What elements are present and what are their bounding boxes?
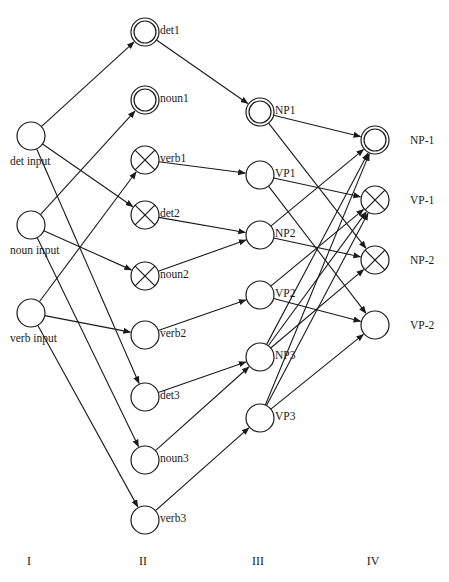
circle-icon [246, 221, 274, 249]
edges-layer [37, 40, 370, 511]
edge-verb2-to-vp2 [158, 300, 246, 330]
node-vp1: VP1 [246, 161, 296, 189]
circle-icon [131, 321, 159, 349]
node-vp-2: VP-2 [361, 311, 435, 339]
circle-icon [131, 506, 159, 534]
column-label-iv: IV [367, 554, 380, 568]
node-np2: NP2 [246, 221, 296, 249]
node-verb3: verb3 [131, 506, 186, 534]
node-verb2: verb2 [131, 321, 186, 349]
node-label: det input [10, 155, 51, 168]
node-vp3: VP3 [246, 404, 296, 432]
node-label: NP-1 [410, 134, 435, 146]
node-label: verb3 [160, 512, 186, 524]
edge-np1-to-np-1 [274, 115, 361, 136]
edge-noun-input-to-noun1 [40, 111, 134, 215]
node-label: noun1 [160, 92, 189, 104]
column-label-i: I [27, 554, 31, 568]
node-label: NP1 [275, 104, 296, 116]
node-label: NP2 [275, 227, 296, 239]
edge-np3-to-np-1 [267, 153, 368, 344]
node-label: VP3 [275, 410, 296, 422]
node-label: det2 [160, 207, 180, 219]
circle-icon [131, 383, 159, 411]
node-label: noun3 [160, 452, 189, 464]
node-vp-1: VP-1 [361, 186, 435, 214]
edge-verb-input-to-verb3 [38, 325, 138, 507]
nodes-layer: det inputnoun inputverb inputdet1noun1ve… [10, 18, 435, 534]
double-ring-circle-icon [361, 126, 389, 154]
node-label: VP-2 [410, 319, 435, 331]
edge-verb3-to-vp3 [155, 428, 248, 511]
node-noun3: noun3 [131, 446, 189, 474]
node-np-2: NP-2 [361, 246, 435, 274]
node-label: verb input [10, 332, 58, 345]
node-det2: det2 [131, 201, 180, 229]
edge-vp3-to-vp-1 [267, 213, 368, 405]
edge-noun3-to-np3 [155, 367, 248, 451]
node-noun2: noun2 [131, 262, 189, 290]
edge-verb-input-to-verb1 [39, 172, 136, 302]
edge-det2-to-np2 [159, 217, 245, 232]
node-np-1: NP-1 [361, 126, 435, 154]
network-diagram: det inputnoun inputverb inputdet1noun1ve… [0, 0, 449, 582]
circle-icon [131, 446, 159, 474]
node-label: VP-1 [410, 194, 435, 206]
double-ring-circle-icon [246, 98, 274, 126]
node-label: noun2 [160, 268, 189, 280]
node-noun1: noun1 [131, 86, 189, 114]
node-label: NP-2 [410, 254, 435, 266]
circle-icon [246, 161, 274, 189]
node-label: VP2 [275, 287, 296, 299]
node-label: det1 [160, 24, 180, 36]
node-label: verb1 [160, 152, 186, 164]
node-label: VP1 [275, 167, 296, 179]
double-ring-circle-icon [131, 86, 159, 114]
node-det-input: det input [10, 122, 51, 168]
circle-icon [246, 281, 274, 309]
column-labels: IIIIIIIV [27, 554, 380, 568]
circle-icon [246, 343, 274, 371]
circle-icon [17, 211, 45, 239]
column-label-ii: II [139, 554, 147, 568]
edge-verb-input-to-verb2 [45, 316, 131, 333]
edge-det3-to-np3 [158, 362, 246, 392]
node-np1: NP1 [246, 98, 296, 126]
circle-icon [17, 122, 45, 150]
double-ring-circle-icon [131, 18, 159, 46]
circle-icon [361, 311, 389, 339]
node-label: det3 [160, 389, 180, 401]
edge-vp3-to-np-1 [265, 154, 369, 405]
edge-det-input-to-det1 [41, 42, 134, 126]
node-verb1: verb1 [131, 146, 186, 174]
node-verb-input: verb input [10, 299, 58, 345]
node-label: noun input [10, 244, 60, 257]
circle-icon [246, 404, 274, 432]
node-det1: det1 [131, 18, 180, 46]
node-noun-input: noun input [10, 211, 60, 257]
column-label-iii: III [252, 554, 264, 568]
edge-noun2-to-np2 [158, 240, 246, 271]
circle-icon [17, 299, 45, 327]
node-label: NP3 [275, 349, 296, 361]
node-label: verb2 [160, 327, 186, 339]
